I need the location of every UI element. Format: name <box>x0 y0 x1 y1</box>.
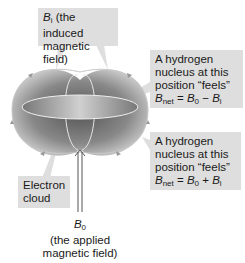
label-line: A hydrogen <box>155 53 238 66</box>
induced-text-2: magnetic field) <box>43 40 113 66</box>
label-line: Electron <box>23 179 65 192</box>
upper-nucleus-label: A hydrogen nucleus at this position “fee… <box>150 50 243 108</box>
label-line: nucleus at this <box>155 66 238 79</box>
induced-field-label: Bi (the induced magnetic field) <box>38 8 118 46</box>
electron-ring <box>22 95 138 119</box>
equation-minus: Bnet = B0 − Bi <box>155 92 238 108</box>
label-line: A hydrogen <box>155 135 236 148</box>
b-symbol: B <box>43 11 51 23</box>
applied-text-2: magnetic field) <box>30 247 130 260</box>
label-line: position “feels” <box>155 79 238 92</box>
applied-field-label: B0 (the applied magnetic field) <box>30 218 130 260</box>
b0-sub: 0 <box>82 223 86 232</box>
lower-nucleus-pointer <box>142 137 150 150</box>
label-line: cloud <box>23 192 65 205</box>
electron-cloud-label: Electron cloud <box>18 176 70 208</box>
label-line: nucleus at this <box>155 148 236 161</box>
equation-plus: Bnet = B0 + Bi <box>155 174 236 190</box>
label-line: position “feels” <box>155 161 236 174</box>
applied-text-1: (the applied <box>30 234 130 247</box>
lower-nucleus-label: A hydrogen nucleus at this position “fee… <box>150 132 241 190</box>
b0-symbol: B <box>74 218 82 230</box>
